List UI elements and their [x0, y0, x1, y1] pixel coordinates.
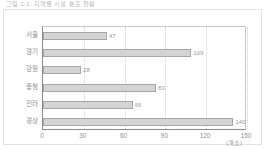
bar-value-label: 47	[107, 32, 116, 39]
bar-series: 47109288366140	[43, 27, 245, 129]
bar	[43, 118, 233, 126]
bar-value-label: 66	[133, 101, 142, 108]
x-axis-tick-label: 0	[40, 131, 44, 140]
y-axis-tick-label: 경기	[26, 48, 38, 56]
bar	[43, 101, 133, 109]
bar-row: 109	[43, 44, 245, 61]
chart-caption: 그림 1-1. 지역별 시설 분포 현황	[6, 0, 95, 8]
bar-value-label: 83	[156, 84, 165, 91]
bar-value-label: 140	[233, 119, 245, 126]
y-axis-tick-label: 강원	[26, 65, 38, 73]
x-axis-tick-label: 120	[200, 131, 211, 140]
x-axis-tick-label: 90	[161, 131, 168, 140]
plot-area: 47109288366140	[42, 26, 246, 130]
x-axis-labels: 0306090120150	[42, 131, 246, 141]
y-axis-labels: 서울경기강원충청전라경상	[7, 26, 41, 130]
y-axis-tick-label: 전라	[26, 100, 38, 108]
axis-unit-label: (개소)	[226, 139, 242, 147]
x-axis-tick-label: 60	[120, 131, 127, 140]
bar-row: 47	[43, 27, 245, 44]
bar	[43, 49, 191, 57]
bar-row: 83	[43, 79, 245, 96]
gridline	[247, 27, 248, 129]
bar-value-label: 28	[81, 67, 90, 74]
bar-row: 140	[43, 114, 245, 131]
y-axis-tick-label: 경상	[26, 117, 38, 125]
chart-figure: 그림 1-1. 지역별 시설 분포 현황 47109288366140 서울경기…	[0, 0, 267, 150]
y-axis-tick-label: 서울	[26, 31, 38, 39]
bar	[43, 66, 81, 74]
bar-value-label: 109	[191, 49, 203, 56]
bar	[43, 84, 156, 92]
x-axis-tick-label: 30	[79, 131, 86, 140]
y-axis-tick-label: 충청	[26, 83, 38, 91]
bar	[43, 32, 107, 40]
bar-row: 28	[43, 62, 245, 79]
x-axis-tick-label: 150	[241, 131, 252, 140]
bar-row: 66	[43, 96, 245, 113]
chart-frame: 47109288366140 서울경기강원충청전라경상 030609012015…	[3, 9, 262, 145]
